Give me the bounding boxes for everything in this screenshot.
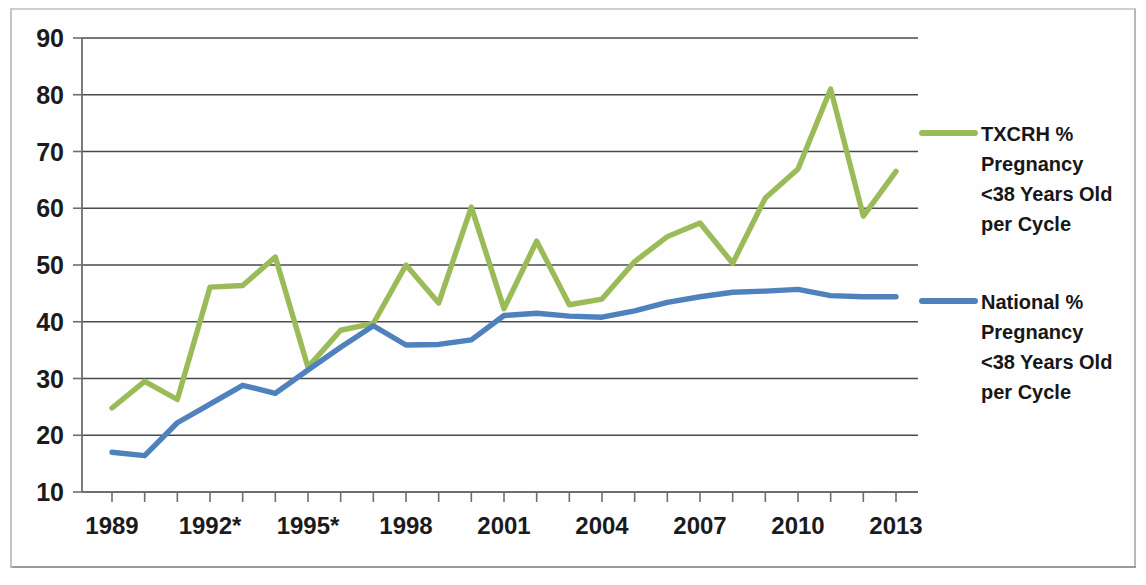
legend-entry-txcrh-line-1: Pregnancy <box>981 153 1084 175</box>
legend-entry-national-line-0: National % <box>981 291 1083 313</box>
legend-entry-txcrh[interactable]: TXCRH %Pregnancy<38 Years Oldper Cycle <box>922 123 1112 235</box>
y-tick-label-60: 60 <box>36 194 64 222</box>
x-tick-label-2007: 2007 <box>673 512 726 539</box>
gridlines-group <box>82 38 918 435</box>
legend-entry-national-line-1: Pregnancy <box>981 321 1084 343</box>
y-tick-label-80: 80 <box>36 81 64 109</box>
chart-legend: TXCRH %Pregnancy<38 Years Oldper CycleNa… <box>922 123 1112 403</box>
legend-entry-national-line-3: per Cycle <box>981 381 1071 403</box>
y-tick-label-40: 40 <box>36 308 64 336</box>
x-tick-label-1998: 1998 <box>379 512 432 539</box>
x-tick-label-2004: 2004 <box>575 512 629 539</box>
y-tick-label-20: 20 <box>36 421 64 449</box>
x-tick-marks-group <box>112 492 896 502</box>
y-tick-label-10: 10 <box>36 478 64 506</box>
legend-entry-txcrh-line-2: <38 Years Old <box>981 183 1112 205</box>
x-tick-label-2013: 2013 <box>869 512 922 539</box>
x-tick-label-2001: 2001 <box>477 512 530 539</box>
data-series-group <box>112 89 896 456</box>
y-tick-label-70: 70 <box>36 138 64 166</box>
x-tick-label-1989: 1989 <box>85 512 138 539</box>
line-chart: 102030405060708090 19891992*1995*1998200… <box>0 0 1146 585</box>
y-tick-labels-group: 102030405060708090 <box>36 24 82 506</box>
y-tick-label-90: 90 <box>36 24 64 52</box>
legend-entry-national-line-2: <38 Years Old <box>981 351 1112 373</box>
legend-entry-national[interactable]: National %Pregnancy<38 Years Oldper Cycl… <box>922 291 1112 403</box>
y-tick-label-30: 30 <box>36 365 64 393</box>
x-tick-label-1995star: 1995* <box>277 512 340 539</box>
x-tick-label-1992star: 1992* <box>179 512 242 539</box>
chart-page: 102030405060708090 19891992*1995*1998200… <box>0 0 1146 585</box>
legend-entry-txcrh-line-0: TXCRH % <box>981 123 1073 145</box>
x-tick-label-2010: 2010 <box>771 512 824 539</box>
y-tick-label-50: 50 <box>36 251 64 279</box>
series-line-national <box>112 289 896 455</box>
legend-entry-txcrh-line-3: per Cycle <box>981 213 1071 235</box>
x-tick-labels-group: 19891992*1995*199820012004200720102013 <box>85 512 922 539</box>
series-line-txcrh <box>112 89 896 408</box>
